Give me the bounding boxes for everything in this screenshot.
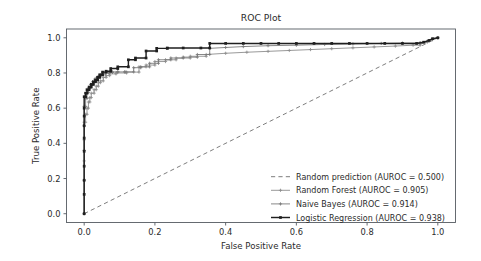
- data-point-marker: [431, 37, 434, 40]
- data-point-marker: [127, 58, 130, 61]
- data-point-marker: [84, 95, 87, 98]
- data-point-marker: [196, 53, 199, 56]
- data-point-marker: [98, 73, 101, 76]
- data-point-marker: [86, 92, 89, 95]
- data-point-marker: [313, 42, 316, 45]
- data-point-marker: [279, 202, 282, 205]
- data-point-marker: [260, 42, 263, 45]
- data-point-marker: [166, 47, 169, 50]
- roc-plot-figure: 0.00.20.40.60.81.00.00.20.40.60.81.0Fals…: [0, 0, 481, 261]
- data-point-marker: [83, 193, 86, 196]
- data-point-marker: [266, 44, 269, 47]
- data-point-marker: [105, 70, 108, 73]
- y-axis-title: True Positive Rate: [31, 87, 41, 165]
- data-point-marker: [95, 88, 98, 91]
- data-point-marker: [155, 50, 158, 53]
- data-point-marker: [134, 57, 137, 60]
- data-point-marker: [109, 70, 112, 73]
- data-point-marker: [83, 115, 86, 118]
- legend-item-random-forest[interactable]: Random Forest (AUROC = 0.905): [271, 186, 428, 195]
- data-point-marker: [428, 39, 431, 42]
- data-point-marker: [279, 216, 282, 219]
- data-point-marker: [277, 42, 280, 45]
- data-point-marker: [266, 50, 269, 53]
- data-point-marker: [132, 70, 135, 73]
- chart-root: 0.00.20.40.60.81.00.00.20.40.60.81.0Fals…: [31, 12, 456, 251]
- legend-label-random-prediction: Random prediction (AUROC = 0.500): [296, 173, 444, 182]
- data-point-marker: [279, 189, 282, 192]
- x-axis-title: False Positive Rate: [221, 241, 301, 251]
- data-point-marker: [116, 65, 119, 68]
- data-point-marker: [224, 46, 227, 49]
- data-point-marker: [99, 79, 102, 82]
- data-point-marker: [373, 45, 376, 48]
- data-point-marker: [242, 45, 245, 48]
- y-tick-label: 0.4: [47, 138, 60, 148]
- data-point-marker: [83, 137, 86, 140]
- legend-item-logistic-regression[interactable]: Logistic Regression (AUROC = 0.938): [271, 214, 445, 223]
- data-point-marker: [83, 124, 86, 127]
- data-point-marker: [153, 63, 156, 66]
- data-point-marker: [351, 46, 354, 49]
- data-point-marker: [200, 47, 203, 50]
- data-point-marker: [401, 42, 404, 45]
- y-tick-label: 1.0: [47, 33, 60, 43]
- data-point-marker: [330, 47, 333, 50]
- data-point-marker: [148, 65, 151, 68]
- data-point-marker: [83, 179, 86, 182]
- y-tick-label: 0.6: [47, 103, 60, 113]
- data-point-marker: [83, 107, 86, 110]
- data-point-marker: [182, 47, 185, 50]
- data-point-marker: [83, 150, 86, 153]
- legend-label-logistic-regression: Logistic Regression (AUROC = 0.938): [296, 214, 445, 223]
- x-tick-label: 1.0: [431, 227, 444, 237]
- data-point-marker: [157, 62, 160, 65]
- data-point-marker: [224, 42, 227, 45]
- data-point-marker: [144, 63, 147, 66]
- y-tick-label: 0.0: [47, 209, 60, 219]
- chart-legend: Random prediction (AUROC = 0.500)Random …: [271, 173, 445, 223]
- data-point-marker: [83, 165, 86, 168]
- legend-item-naive-bayes[interactable]: Naive Bayes (AUROC = 0.914): [271, 200, 418, 209]
- data-point-marker: [127, 65, 130, 68]
- data-point-marker: [155, 47, 158, 50]
- roc-chart-canvas: 0.00.20.40.60.81.00.00.20.40.60.81.0Fals…: [0, 0, 481, 261]
- data-point-marker: [88, 88, 91, 91]
- data-point-marker: [101, 71, 104, 74]
- data-point-marker: [148, 62, 151, 65]
- y-tick-label: 0.8: [47, 68, 60, 78]
- data-point-marker: [208, 53, 211, 56]
- y-tick-label: 0.2: [47, 174, 60, 184]
- legend-label-naive-bayes: Naive Bayes (AUROC = 0.914): [296, 200, 418, 209]
- data-point-marker: [98, 76, 101, 79]
- data-point-marker: [309, 48, 312, 51]
- legend-label-random-forest: Random Forest (AUROC = 0.905): [296, 186, 428, 195]
- data-point-marker: [415, 42, 418, 45]
- x-tick-label: 0.4: [219, 227, 232, 237]
- data-point-marker: [109, 67, 112, 70]
- data-point-marker: [422, 41, 425, 44]
- data-point-marker: [157, 58, 160, 61]
- data-point-marker: [208, 42, 211, 45]
- data-point-marker: [169, 56, 172, 59]
- data-point-marker: [348, 42, 351, 45]
- data-point-marker: [92, 83, 95, 86]
- data-point-marker: [383, 42, 386, 45]
- data-point-marker: [366, 42, 369, 45]
- data-point-marker: [245, 51, 248, 54]
- x-tick-label: 0.2: [148, 227, 161, 237]
- data-point-marker: [208, 47, 211, 50]
- data-point-marker: [101, 73, 104, 76]
- data-point-marker: [242, 42, 245, 45]
- data-point-marker: [132, 66, 135, 69]
- data-point-marker: [90, 92, 93, 95]
- x-tick-label: 0.0: [78, 227, 91, 237]
- x-tick-label: 0.8: [360, 227, 373, 237]
- data-point-marker: [92, 92, 95, 95]
- data-point-marker: [330, 42, 333, 45]
- legend-item-random-prediction[interactable]: Random prediction (AUROC = 0.500): [271, 173, 444, 182]
- data-point-marker: [394, 44, 397, 47]
- x-tick-label: 0.6: [290, 227, 303, 237]
- data-point-marker: [90, 86, 93, 89]
- data-point-marker: [96, 79, 99, 82]
